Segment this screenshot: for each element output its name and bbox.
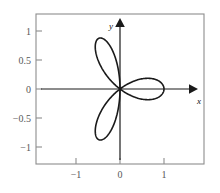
y-tick-label-0: 0 xyxy=(26,84,31,95)
y-axis-label: y xyxy=(108,21,113,31)
y-tick-label-neg0.5: −0.5 xyxy=(13,113,31,124)
y-axis-arrowhead xyxy=(115,18,125,27)
y-tick-label-1: 1 xyxy=(26,26,31,37)
y-tick-labels: 1 0.5 0 −0.5 −1 xyxy=(13,26,31,153)
x-axis-label: x xyxy=(196,96,201,106)
x-tick-label-1: 1 xyxy=(162,169,167,180)
y-tick-label-neg1: −1 xyxy=(20,142,31,153)
x-tick-label-0: 0 xyxy=(118,169,123,180)
x-axis-arrowhead xyxy=(189,84,198,94)
x-tick-labels: −1 0 1 xyxy=(71,169,167,180)
y-tick-label-0.5: 0.5 xyxy=(19,55,32,66)
plot-canvas: 1 0.5 0 −0.5 −1 −1 0 1 x y xyxy=(0,0,220,193)
x-tick-label-neg1: −1 xyxy=(71,169,82,180)
